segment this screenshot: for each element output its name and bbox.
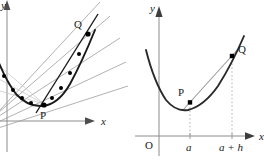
right-curve [146,36,244,110]
left-x-axis-label: x [100,115,106,127]
left-point-P-marker [41,102,46,107]
calculus-figure: x y [0,0,264,165]
left-curve-sample-points [50,52,81,100]
right-tick-label-a: a [186,141,192,153]
right-point-P-label: P [178,86,184,98]
left-x-axis [0,117,95,125]
left-point-Q-label: Q [74,18,82,30]
right-x-axis-label: x [258,130,264,142]
right-y-axis-label: y [149,2,155,14]
right-tick-label-a-plus-h: a + h [219,141,243,153]
left-point-P-label: P [40,109,46,121]
right-point-P-marker [188,100,192,104]
left-tangent-line [36,14,98,113]
right-x-axis [135,132,255,140]
right-panel-single-secant: y x O P Q [132,0,264,165]
left-secant-lines [0,2,128,130]
left-y-axis-label: y [0,0,6,11]
left-point-Q-marker [85,31,90,36]
right-origin-label: O [145,139,153,151]
left-panel-secant-fan: x y [0,0,132,165]
right-point-Q-label: Q [238,43,246,55]
right-point-Q-marker [230,54,234,58]
